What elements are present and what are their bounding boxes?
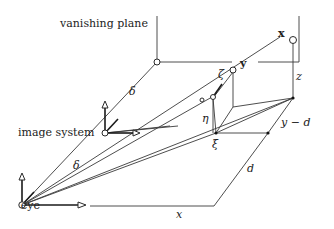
ground-plane [90, 98, 293, 206]
z-label: z [295, 70, 302, 83]
xi-dot [214, 131, 217, 134]
image-system-label: image system [18, 126, 95, 139]
d-label: d [247, 162, 254, 175]
delta-marker-node [200, 98, 204, 102]
image-system-axes [102, 101, 140, 136]
yd-dot [266, 131, 269, 134]
x-point-label: x [278, 27, 285, 40]
vanishing-corner-node [154, 59, 160, 65]
eye-label: eye [21, 199, 40, 212]
zeta-label: ζ [218, 68, 225, 81]
perspective-diagram: vanishing plane image system eye x y δ δ… [0, 0, 334, 229]
delta-lower-label: δ [73, 159, 80, 172]
image-system-node [102, 130, 108, 136]
vanishing-plane-label: vanishing plane [59, 17, 148, 30]
image-point-node [211, 95, 216, 100]
xi-label: ξ [212, 138, 219, 151]
x-axis-label: x [176, 208, 183, 221]
zeta-node [230, 67, 236, 73]
eta-label: η [202, 112, 209, 125]
delta-upper-label: δ [129, 85, 136, 98]
y-minus-d-label: y − d [280, 116, 310, 129]
x-node [290, 37, 297, 44]
z-base-dot [291, 96, 294, 99]
y-point-label: y [239, 57, 247, 70]
